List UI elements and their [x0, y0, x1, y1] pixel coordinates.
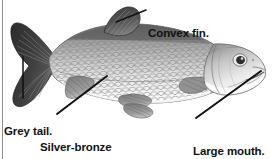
- label-large-mouth: Large mouth.: [193, 120, 265, 159]
- label-convex-fin-line-1: Convex fin.: [148, 27, 209, 40]
- label-convex-fin: Convex fin.: [148, 2, 209, 65]
- fish-diagram-figure: Convex fin. Grey tail. Silver-bronze fla…: [0, 0, 274, 159]
- eye: [233, 54, 247, 66]
- label-large-mouth-line-1: Large mouth.: [193, 145, 265, 158]
- label-silver-bronze-flanks-line-1: Silver-bronze: [40, 141, 112, 154]
- label-silver-bronze-flanks: Silver-bronze flanks.: [40, 116, 112, 159]
- nostril: [252, 59, 254, 61]
